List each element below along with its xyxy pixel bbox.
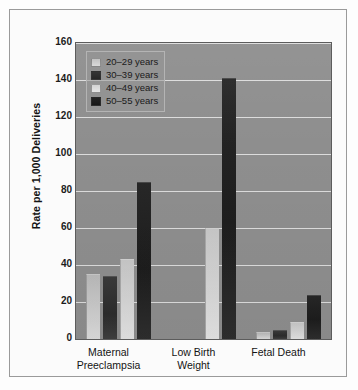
legend-item: 20–29 years: [91, 56, 158, 68]
bar: [137, 182, 151, 339]
gridline: [76, 43, 331, 44]
legend-item: 30–39 years: [91, 69, 158, 81]
legend-swatch-icon: [91, 84, 101, 93]
legend-swatch-icon: [91, 71, 101, 80]
bar: [86, 274, 100, 339]
gridline: [76, 117, 331, 118]
plot-area: 20–29 years30–39 years40–49 years50–55 y…: [75, 42, 332, 340]
gridline: [76, 228, 331, 229]
bar: [273, 330, 287, 339]
legend-swatch-icon: [91, 58, 101, 67]
bar: [205, 228, 219, 339]
bar: [103, 276, 117, 339]
legend-item: 50–55 years: [91, 95, 158, 107]
y-axis-tick-label: 0: [32, 333, 72, 343]
x-axis-category-line: Fetal Death: [229, 346, 329, 359]
legend-item: 40–49 years: [91, 82, 158, 94]
gridline: [76, 154, 331, 155]
legend-item-label: 30–39 years: [106, 70, 158, 80]
x-axis-category-label: Fetal Death: [229, 346, 329, 359]
legend-item-label: 50–55 years: [106, 96, 158, 106]
figure-frame: 020406080100120140160 Rate per 1,000 Del…: [9, 9, 347, 377]
bar: [256, 332, 270, 339]
y-axis-tick-label: 40: [32, 259, 72, 269]
y-axis-tick-label: 160: [32, 37, 72, 47]
y-axis-title: Rate per 1,000 Deliveries: [30, 101, 42, 231]
y-axis-tick-label: 20: [32, 296, 72, 306]
bar: [120, 259, 134, 339]
legend-item-label: 40–49 years: [106, 83, 158, 93]
y-axis-tick-label: 140: [32, 74, 72, 84]
bar: [307, 295, 321, 339]
bar: [290, 322, 304, 339]
legend-item-label: 20–29 years: [106, 57, 158, 67]
gridline: [76, 265, 331, 266]
bar: [222, 78, 236, 339]
legend: 20–29 years30–39 years40–49 years50–55 y…: [86, 51, 165, 112]
legend-swatch-icon: [91, 97, 101, 106]
x-axis-category-line: Weight: [144, 359, 244, 372]
gridline: [76, 191, 331, 192]
figure-root: 020406080100120140160 Rate per 1,000 Del…: [0, 0, 358, 390]
